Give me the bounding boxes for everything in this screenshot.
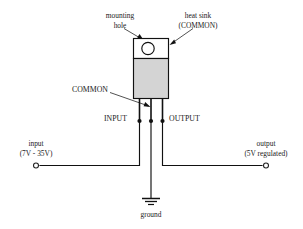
input-terminal-icon xyxy=(34,163,39,168)
mounting-hole-label-line2: hole xyxy=(114,21,127,30)
mounting-hole-icon xyxy=(142,42,154,54)
output-wire xyxy=(163,121,263,166)
input-wire xyxy=(40,121,140,166)
output-pin-label: OUTPUT xyxy=(169,114,200,123)
input-pin-label: INPUT xyxy=(104,114,127,123)
heat-sink-leader-icon xyxy=(170,29,194,46)
mounting-hole-label-line1: mounting xyxy=(106,11,135,20)
regulator-body xyxy=(134,59,169,99)
output-terminal-icon xyxy=(264,163,269,168)
common-label: COMMON xyxy=(72,85,108,94)
circuit-diagram: mounting hole heat sink (COMMON) COMMON … xyxy=(0,0,303,229)
output-terminal-label-line2: (5V regulated) xyxy=(244,149,288,158)
input-terminal-label-line2: (7V - 35V) xyxy=(20,149,53,158)
heat-sink-label-line1: heat sink xyxy=(185,11,212,20)
ground-symbol-icon xyxy=(142,199,160,205)
pin-common xyxy=(149,99,153,124)
pin-output xyxy=(160,99,164,124)
output-terminal-label-line1: output xyxy=(257,139,277,148)
input-terminal-label-line1: input xyxy=(28,139,44,148)
heat-sink-label-line2: (COMMON) xyxy=(178,21,218,30)
ground-label: ground xyxy=(141,210,162,219)
